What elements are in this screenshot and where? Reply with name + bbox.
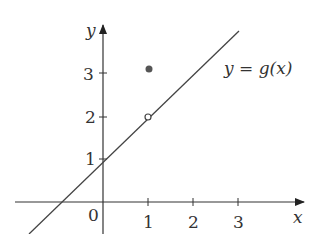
function-line bbox=[29, 31, 239, 234]
y-tick-label-1: 1 bbox=[85, 149, 96, 169]
x-axis-label: x bbox=[293, 207, 303, 227]
filled-point bbox=[146, 66, 153, 73]
x-tick-label-2: 2 bbox=[188, 212, 199, 232]
x-tick-label-1: 1 bbox=[143, 212, 154, 232]
open-point bbox=[145, 114, 151, 120]
function-label: y = g(x) bbox=[223, 58, 292, 78]
x-tick-label-3: 3 bbox=[233, 212, 244, 232]
y-tick-label-2: 2 bbox=[85, 107, 96, 127]
graph: 1 2 3 0 1 2 3 y x y = g(x) bbox=[0, 0, 326, 234]
y-axis-label: y bbox=[85, 20, 96, 40]
origin-label: 0 bbox=[88, 205, 99, 225]
y-tick-label-3: 3 bbox=[83, 64, 94, 84]
